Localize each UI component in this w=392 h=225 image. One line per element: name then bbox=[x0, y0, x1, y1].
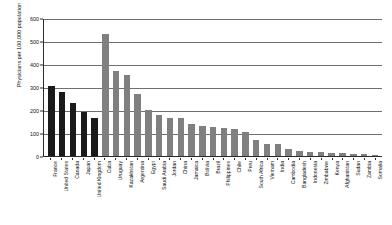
x-label-slot: United Kingdom bbox=[88, 158, 99, 224]
bar-slot bbox=[240, 19, 251, 156]
y-tick-label: 500 bbox=[30, 39, 39, 45]
bar-slot bbox=[326, 19, 337, 156]
x-tick-label: Somalia bbox=[377, 161, 383, 179]
x-label-slot: Cuba bbox=[99, 158, 110, 224]
bar-slot bbox=[46, 19, 57, 156]
bar bbox=[188, 124, 194, 156]
x-label-slot: Canada bbox=[67, 158, 78, 224]
x-tick-mark bbox=[94, 158, 95, 160]
bar bbox=[318, 152, 324, 156]
bar bbox=[339, 153, 345, 156]
bar-slot bbox=[305, 19, 316, 156]
bar bbox=[156, 115, 162, 156]
x-tick-mark bbox=[148, 158, 149, 160]
y-tick-label: 0 bbox=[36, 154, 39, 160]
y-tick-label: 400 bbox=[30, 62, 39, 68]
x-label-slot: Jordan bbox=[164, 158, 175, 224]
bar-series bbox=[44, 19, 382, 156]
bar-slot bbox=[111, 19, 122, 156]
x-tick-mark bbox=[267, 158, 268, 160]
bar-slot bbox=[68, 19, 79, 156]
x-label-slot: Brazil bbox=[207, 158, 218, 224]
bar-slot bbox=[348, 19, 359, 156]
x-tick-mark bbox=[310, 158, 311, 160]
x-label-slot: Philippines bbox=[218, 158, 229, 224]
bar-slot bbox=[121, 19, 132, 156]
bar-slot bbox=[337, 19, 348, 156]
x-tick-mark bbox=[202, 158, 203, 160]
bar-slot bbox=[208, 19, 219, 156]
x-label-slot: Zambia bbox=[359, 158, 370, 224]
bar-slot bbox=[154, 19, 165, 156]
bar bbox=[48, 86, 54, 156]
bar bbox=[350, 154, 356, 156]
x-tick-mark bbox=[50, 158, 51, 160]
bar bbox=[328, 153, 334, 156]
x-label-slot: Jamaica bbox=[186, 158, 197, 224]
bar bbox=[372, 155, 378, 156]
y-tick-label: 300 bbox=[30, 85, 39, 91]
bar bbox=[134, 94, 140, 156]
x-tick-mark bbox=[256, 158, 257, 160]
x-tick-mark bbox=[288, 158, 289, 160]
x-label-slot: Kazakhstan bbox=[121, 158, 132, 224]
bar bbox=[275, 144, 281, 156]
bar bbox=[264, 144, 270, 156]
bar-slot bbox=[272, 19, 283, 156]
bar-slot bbox=[132, 19, 143, 156]
x-tick-mark bbox=[332, 158, 333, 160]
x-tick-mark bbox=[72, 158, 73, 160]
x-label-slot: Bangladesh bbox=[294, 158, 305, 224]
x-tick-mark bbox=[375, 158, 376, 160]
bar bbox=[167, 118, 173, 156]
bar bbox=[70, 103, 76, 156]
x-tick-mark bbox=[115, 158, 116, 160]
bar bbox=[307, 152, 313, 156]
x-tick-mark bbox=[126, 158, 127, 160]
bar-slot bbox=[78, 19, 89, 156]
x-tick-mark bbox=[159, 158, 160, 160]
x-tick-mark bbox=[213, 158, 214, 160]
bar-slot bbox=[294, 19, 305, 156]
x-tick-mark bbox=[191, 158, 192, 160]
bar bbox=[81, 112, 87, 156]
bar-slot bbox=[100, 19, 111, 156]
x-label-slot: Sudan bbox=[348, 158, 359, 224]
bar bbox=[199, 126, 205, 156]
y-tick-label: 600 bbox=[30, 16, 39, 22]
bar bbox=[113, 71, 119, 156]
x-label-slot: Uruguay bbox=[110, 158, 121, 224]
x-tick-mark bbox=[104, 158, 105, 160]
bar bbox=[178, 118, 184, 156]
bar-slot bbox=[165, 19, 176, 156]
bar bbox=[253, 140, 259, 156]
x-label-slot: Egypt bbox=[142, 158, 153, 224]
x-label-slot: Vietnam bbox=[261, 158, 272, 224]
x-label-slot: India bbox=[272, 158, 283, 224]
x-label-slot: Cambodia bbox=[283, 158, 294, 224]
x-label-slot: Chile bbox=[229, 158, 240, 224]
x-label-slot: Peru bbox=[240, 158, 251, 224]
bar bbox=[221, 128, 227, 156]
bar bbox=[242, 132, 248, 156]
y-tick-label: 200 bbox=[30, 108, 39, 114]
x-tick-mark bbox=[277, 158, 278, 160]
bar bbox=[285, 149, 291, 156]
bar-slot bbox=[316, 19, 327, 156]
x-label-slot: Bolivia bbox=[196, 158, 207, 224]
x-tick-mark bbox=[83, 158, 84, 160]
bar-slot bbox=[229, 19, 240, 156]
bar-slot bbox=[143, 19, 154, 156]
x-label-slot: South Africa bbox=[250, 158, 261, 224]
bar-slot bbox=[219, 19, 230, 156]
bar-slot bbox=[197, 19, 208, 156]
x-tick-mark bbox=[342, 158, 343, 160]
x-label-slot: France bbox=[45, 158, 56, 224]
x-label-slot: Saudi Arabia bbox=[153, 158, 164, 224]
x-axis-tick-labels: FranceUnited StatesCanadaJapanUnited Kin… bbox=[43, 158, 382, 224]
bar-slot bbox=[89, 19, 100, 156]
bar bbox=[231, 129, 237, 156]
bar-slot bbox=[283, 19, 294, 156]
plot-area bbox=[43, 19, 382, 157]
bar bbox=[210, 127, 216, 156]
